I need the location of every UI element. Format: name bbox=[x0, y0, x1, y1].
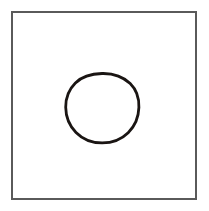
figure-container: Circle inside a square frame bbox=[0, 0, 209, 211]
figure-canvas bbox=[0, 0, 209, 211]
figure-background bbox=[0, 0, 209, 211]
